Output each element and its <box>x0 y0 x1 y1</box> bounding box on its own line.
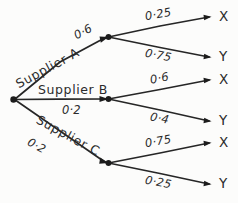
arrowhead-leaf-a-x <box>204 15 212 20</box>
outcome-label-b-x: X <box>219 73 228 87</box>
outcome-label-c-x: X <box>219 136 228 150</box>
outcome-label-a-y: Y <box>219 50 227 64</box>
branch-probability-supplier-b: 0·2 <box>62 105 81 117</box>
arrowhead-leaf-b-x <box>204 78 212 83</box>
outcome-label-b-y: Y <box>219 114 227 128</box>
arrowhead-leaf-b-y <box>204 118 212 123</box>
arrowhead-leaf-a-y <box>204 54 212 59</box>
node-supplier-c <box>106 160 112 166</box>
tree-edges-canvas <box>0 0 238 203</box>
arrowhead-leaf-c-y <box>204 181 212 186</box>
node-supplier-a <box>106 34 112 40</box>
node-root <box>10 96 16 102</box>
edge-root-to-supplier-b <box>15 99 106 100</box>
branch-label-supplier-b: Supplier B <box>38 84 108 97</box>
outcome-label-c-y: Y <box>219 177 227 191</box>
probability-tree-diagram: Supplier A 0·6 Supplier B 0·2 Supplier C… <box>0 0 238 203</box>
outcome-label-a-x: X <box>219 10 228 24</box>
arrowhead-leaf-c-x <box>204 141 212 146</box>
